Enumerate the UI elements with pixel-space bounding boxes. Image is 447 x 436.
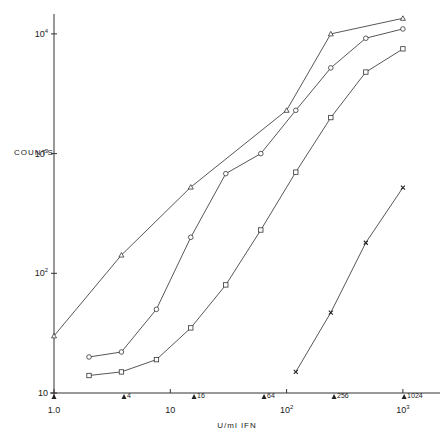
x-axis-title: U/ml IFN [217,421,257,430]
x-tick-label: 102 [280,404,294,415]
circle-marker-icon [329,66,334,71]
y-tick-label: 102 [35,267,49,278]
circle-marker-icon [364,36,369,41]
square-marker-icon [224,283,228,287]
x-marker-label: 256 [337,392,349,399]
square-marker-icon [259,228,263,232]
x-marker-icon [401,186,405,190]
x-marker-label: 64 [267,392,275,399]
circle-marker-icon [223,171,228,176]
square-marker-icon [364,70,368,74]
series-line-circle [89,29,403,357]
square-marker-icon [87,373,91,377]
circle-marker-icon [188,235,193,240]
circle-marker-icon [119,350,124,355]
x-marker-label: 16 [197,392,205,399]
series-line-square [89,49,403,376]
circle-marker-icon [258,151,263,156]
x-tick-label: 10 [165,405,175,415]
x-tick-label: 1.0 [48,405,61,415]
circle-marker-icon [154,307,159,312]
triangle-marker-icon [400,16,405,21]
y-tick-label: 104 [35,28,49,39]
x-marker-triangle-icon [262,394,267,399]
circle-marker-icon [294,108,299,113]
square-marker-icon [189,326,193,330]
square-marker-icon [119,370,123,374]
x-marker-label: 1024 [407,392,423,399]
square-marker-icon [401,47,405,51]
square-marker-icon [154,357,158,361]
x-marker-triangle-icon [122,394,127,399]
chart: 101021031041.010102103416642561024COUNTS… [0,0,447,436]
x-marker-triangle-icon [402,394,407,399]
x-marker-triangle-icon [332,394,337,399]
x-marker-icon [294,370,298,374]
triangle-marker-icon [284,108,289,113]
square-marker-icon [329,115,333,119]
y-axis-title: COUNTS [14,148,54,157]
plot-area [52,16,406,378]
circle-marker-icon [401,27,406,32]
series-line-cross [296,188,403,372]
circle-marker-icon [87,355,92,360]
x-marker-triangle-icon [52,394,57,399]
x-marker-triangle-icon [192,394,197,399]
axes: 101021031041.010102103416642561024COUNTS… [14,14,440,430]
series-line-triangle [54,18,403,336]
x-tick-label: 103 [396,404,410,415]
x-marker-icon [329,311,333,315]
square-marker-icon [294,170,298,174]
x-marker-label: 4 [127,392,131,399]
x-marker-icon [364,241,368,245]
y-tick-label: 10 [38,388,48,398]
